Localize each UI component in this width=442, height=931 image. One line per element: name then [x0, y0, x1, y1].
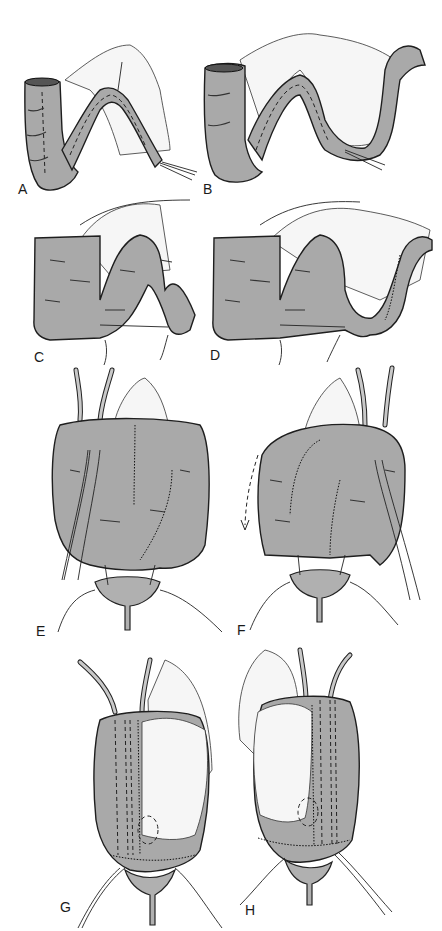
panel-d-drawing — [213, 202, 432, 365]
panel-label-f: F — [237, 623, 246, 637]
panel-label-c: C — [34, 350, 44, 364]
panel-b-drawing — [204, 34, 425, 182]
panel-label-e: E — [36, 624, 45, 638]
figure-canvas — [0, 0, 442, 931]
panel-label-g: G — [60, 900, 71, 914]
panel-label-h: H — [245, 903, 255, 917]
panel-f-drawing — [241, 368, 420, 630]
panel-a-drawing — [25, 45, 197, 190]
panel-e-drawing — [52, 370, 222, 632]
panel-label-b: B — [203, 182, 212, 196]
panel-h-drawing — [239, 650, 392, 915]
panel-c-drawing — [34, 200, 195, 365]
panel-label-d: D — [210, 348, 220, 362]
panel-g-drawing — [78, 660, 222, 928]
panel-label-a: A — [18, 182, 27, 196]
